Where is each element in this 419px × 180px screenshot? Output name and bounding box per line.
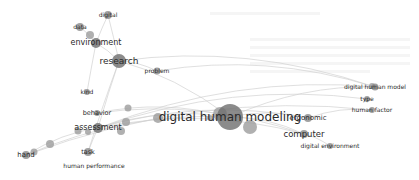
network-node[interactable] — [46, 140, 54, 148]
network-node[interactable] — [122, 118, 130, 126]
network-edge — [88, 61, 119, 152]
network-edge — [157, 65, 375, 87]
node-label-digital-environment[interactable]: digital environment — [301, 143, 360, 149]
network-edge — [119, 61, 230, 117]
node-label-type[interactable]: type — [360, 96, 373, 102]
node-label-environment[interactable]: environment — [71, 39, 122, 47]
node-label-problem[interactable]: problem — [145, 68, 170, 74]
node-label-data[interactable]: data — [73, 24, 87, 30]
node-label-task[interactable]: task — [81, 149, 95, 156]
node-label-research[interactable]: research — [100, 57, 139, 66]
node-label-digital[interactable]: digital — [99, 12, 118, 18]
keyword-network-map — [0, 0, 419, 180]
node-label-ergonomic[interactable]: ergonomic — [289, 115, 326, 122]
node-label-human-performance[interactable]: human performance — [63, 163, 124, 169]
node-label-assessment[interactable]: assessment — [74, 124, 121, 132]
node-label-hand[interactable]: hand — [17, 152, 35, 159]
node-label-kind[interactable]: kind — [81, 89, 94, 95]
node-label-digital-human-modeling[interactable]: digital human modeling — [159, 111, 302, 123]
node-label-digital-human-model[interactable]: digital human model — [344, 84, 406, 90]
network-edge — [87, 43, 96, 92]
node-label-computer[interactable]: computer — [284, 130, 325, 139]
network-edge — [98, 61, 119, 128]
node-label-behavior[interactable]: behavior — [83, 110, 112, 117]
network-node[interactable] — [125, 105, 132, 112]
node-label-human-factor[interactable]: human factor — [352, 107, 392, 113]
background-faint-text — [210, 12, 410, 73]
